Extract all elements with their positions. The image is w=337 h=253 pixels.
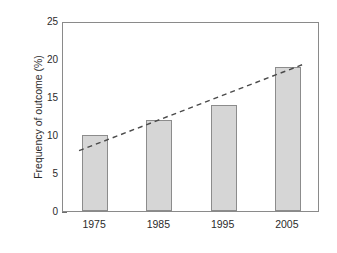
y-axis-tick-label: 10 [47,129,58,142]
y-axis-tick-label: 5 [52,167,58,180]
y-axis-title: Frequency of outcome (%) [32,55,44,179]
y-axis-tick-label: 0 [52,205,58,218]
x-axis-tick-label: 1985 [147,218,170,230]
y-axis-tick-label: 25 [47,15,58,28]
x-axis-tick-label: 1975 [82,218,105,230]
trend-line-svg [63,23,320,213]
y-axis-tick-label: 15 [47,91,58,104]
trend-line [79,64,304,151]
y-axis-title-holder: Frequency of outcome (%) [22,22,36,212]
x-axis-tick-label: 2005 [275,218,298,230]
plot-area [62,22,319,212]
x-axis-tick-label: 1995 [211,218,234,230]
chart-figure: Frequency of outcome (%) 0510152025 1975… [0,0,337,253]
y-axis-tick-label: 20 [47,53,58,66]
